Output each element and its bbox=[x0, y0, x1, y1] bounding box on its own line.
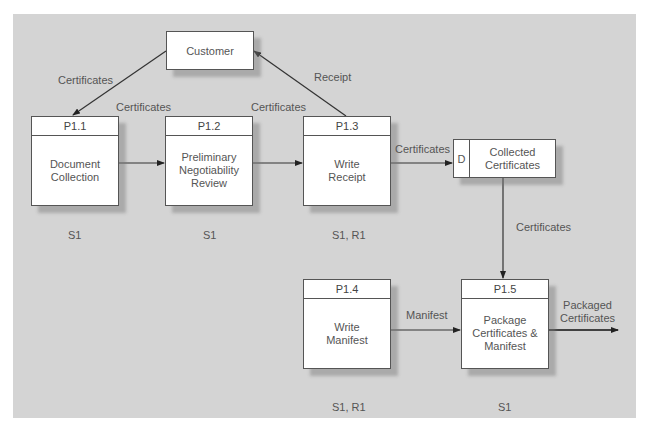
process-annotation: S1 bbox=[498, 401, 511, 413]
flow-label: Packaged Certificates bbox=[560, 299, 615, 325]
process-annotation: S1, R1 bbox=[332, 229, 366, 241]
flow-label: Certificates bbox=[116, 101, 171, 114]
entity-label: Customer bbox=[186, 45, 234, 57]
flow-label: Certificates bbox=[395, 143, 450, 156]
process-p1-3[interactable]: P1.3 Write Receipt bbox=[303, 116, 391, 206]
process-name: Write Receipt bbox=[304, 136, 390, 205]
process-name: Write Manifest bbox=[304, 299, 390, 368]
process-name: Package Certificates & Manifest bbox=[462, 299, 548, 368]
process-name: Preliminary Negotiability Review bbox=[166, 136, 252, 205]
process-id: P1.4 bbox=[304, 280, 390, 299]
process-annotation: S1 bbox=[203, 229, 216, 241]
flow-label: Certificates bbox=[251, 101, 306, 114]
process-p1-5[interactable]: P1.5 Package Certificates & Manifest bbox=[461, 279, 549, 369]
flow-label: Certificates bbox=[516, 221, 571, 234]
entity-customer[interactable]: Customer bbox=[166, 31, 254, 70]
process-id: P1.5 bbox=[462, 280, 548, 299]
datastore-collected-certificates[interactable]: D Collected Certificates bbox=[453, 139, 556, 178]
process-annotation: S1 bbox=[68, 229, 81, 241]
process-id: P1.3 bbox=[304, 117, 390, 136]
flow-label: Certificates bbox=[58, 74, 113, 87]
process-id: P1.2 bbox=[166, 117, 252, 136]
process-p1-2[interactable]: P1.2 Preliminary Negotiability Review bbox=[165, 116, 253, 206]
datastore-id: D bbox=[454, 140, 470, 177]
process-p1-1[interactable]: P1.1 Document Collection bbox=[31, 116, 119, 206]
process-id: P1.1 bbox=[32, 117, 118, 136]
process-p1-4[interactable]: P1.4 Write Manifest bbox=[303, 279, 391, 369]
flow-label: Manifest bbox=[406, 309, 448, 322]
flow-label: Receipt bbox=[314, 71, 351, 84]
datastore-name: Collected Certificates bbox=[470, 140, 555, 177]
process-name: Document Collection bbox=[32, 136, 118, 205]
process-annotation: S1, R1 bbox=[332, 401, 366, 413]
